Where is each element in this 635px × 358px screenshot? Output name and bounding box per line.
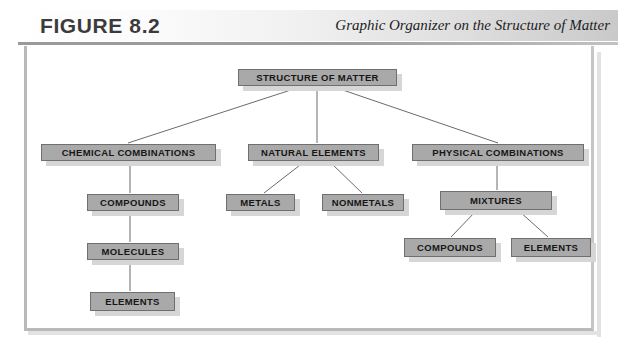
node-molecules: MOLECULES bbox=[87, 243, 179, 260]
node-label-mixtures: MIXTURES bbox=[470, 195, 522, 206]
node-mixtures: MIXTURES bbox=[440, 191, 552, 210]
node-label-chemcomb: CHEMICAL COMBINATIONS bbox=[62, 147, 196, 158]
node-label-nonmetals: NONMETALS bbox=[332, 197, 395, 208]
node-label-natelem: NATURAL ELEMENTS bbox=[261, 147, 366, 158]
node-label-compounds1: COMPOUNDS bbox=[100, 197, 166, 208]
connector-natelem-to-nonmetals bbox=[330, 162, 362, 193]
node-label-elements2: ELEMENTS bbox=[524, 242, 579, 253]
node-label-physcomb: PHYSICAL COMBINATIONS bbox=[432, 147, 564, 158]
node-elements1: ELEMENTS bbox=[90, 292, 175, 311]
node-label-molecules: MOLECULES bbox=[102, 246, 165, 257]
node-metals: METALS bbox=[226, 194, 295, 211]
connector-natelem-to-metals bbox=[264, 162, 304, 193]
node-physcomb: PHYSICAL COMBINATIONS bbox=[412, 144, 584, 161]
node-compounds2: COMPOUNDS bbox=[404, 238, 496, 257]
node-label-metals: METALS bbox=[240, 197, 280, 208]
node-nonmetals: NONMETALS bbox=[322, 194, 404, 211]
node-chemcomb: CHEMICAL COMBINATIONS bbox=[41, 144, 216, 161]
node-natelem: NATURAL ELEMENTS bbox=[248, 144, 379, 161]
connector-root-to-physcomb bbox=[334, 87, 498, 143]
node-root: STRUCTURE OF MATTER bbox=[238, 69, 397, 86]
node-elements2: ELEMENTS bbox=[511, 238, 591, 257]
node-label-compounds2: COMPOUNDS bbox=[417, 242, 483, 253]
node-label-root: STRUCTURE OF MATTER bbox=[256, 72, 379, 83]
node-compounds1: COMPOUNDS bbox=[87, 194, 179, 211]
graphic-organizer-diagram: STRUCTURE OF MATTERCHEMICAL COMBINATIONS… bbox=[0, 0, 635, 358]
node-label-elements1: ELEMENTS bbox=[105, 296, 160, 307]
connector-root-to-chemcomb bbox=[128, 87, 300, 143]
figure-page: FIGURE 8.2 Graphic Organizer on the Stru… bbox=[0, 0, 635, 358]
